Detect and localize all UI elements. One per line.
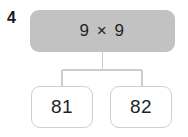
answer-option-2-label: 82 — [130, 96, 152, 118]
question-card: 4 9 × 9 81 82 — [0, 0, 188, 137]
answer-option-2[interactable]: 82 — [110, 86, 172, 128]
answer-option-1[interactable]: 81 — [31, 86, 93, 128]
prompt-expression: 9 × 9 — [80, 21, 126, 41]
answer-option-1-label: 81 — [51, 96, 73, 118]
question-number: 4 — [7, 9, 16, 27]
prompt-box: 9 × 9 — [30, 10, 175, 52]
